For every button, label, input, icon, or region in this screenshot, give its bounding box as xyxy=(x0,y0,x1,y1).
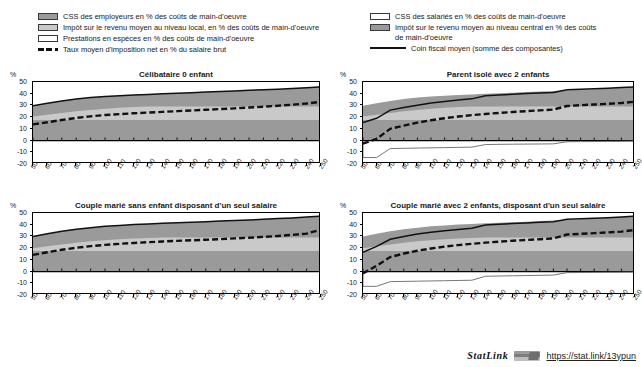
x-axis-tick-mark xyxy=(205,294,206,297)
y-tick-label: 50 xyxy=(349,78,357,85)
dashed-line-icon xyxy=(38,46,58,53)
x-axis-tick-mark xyxy=(162,294,163,297)
x-axis-tick-mark xyxy=(147,294,148,297)
y-tick-label: 10 xyxy=(19,124,27,131)
x-axis-tick-mark xyxy=(498,163,499,166)
x-axis-tick-mark xyxy=(277,163,278,166)
x-axis-tick-mark xyxy=(607,163,608,166)
x-axis-tick-mark xyxy=(219,163,220,166)
y-tick-label: 40 xyxy=(19,220,27,227)
x-axis-tick-mark xyxy=(306,294,307,297)
x-axis-tick-mark xyxy=(634,163,635,166)
statlink-barcode-icon xyxy=(514,351,540,361)
x-axis-tick-mark xyxy=(133,163,134,166)
chart-title: Couple marié sans enfant disposant d'un … xyxy=(32,201,320,210)
legend-label: Prestations en espèces en % des coûts de… xyxy=(63,34,254,44)
legend-right: CSS des salariés en % des coûts de main-… xyxy=(370,12,600,55)
area-band xyxy=(363,120,634,141)
y-tick-label: 0 xyxy=(353,136,357,143)
area-band xyxy=(33,120,320,141)
x-axis-tick-mark xyxy=(552,163,553,166)
x-axis-tick-mark xyxy=(362,294,363,297)
y-tick-label: 0 xyxy=(353,267,357,274)
benefits-line xyxy=(363,272,634,287)
x-axis-tick-mark xyxy=(539,294,540,297)
y-tick-label: 20 xyxy=(349,113,357,120)
x-axis-tick-mark xyxy=(416,294,417,297)
y-tick-label: -10 xyxy=(347,148,357,155)
y-tick-label: 30 xyxy=(19,232,27,239)
chart-title: Couple marié avec 2 enfants, disposant d… xyxy=(362,201,634,210)
y-tick-label: 40 xyxy=(349,220,357,227)
swatch-dark-icon xyxy=(370,24,390,31)
legend-label: Taux moyen d'imposition net en % du sala… xyxy=(63,45,226,55)
y-tick-label: 10 xyxy=(349,255,357,262)
y-tick-label: 30 xyxy=(349,232,357,239)
x-axis-tick-mark xyxy=(580,294,581,297)
series-canvas xyxy=(33,82,320,163)
x-axis-tick-mark xyxy=(444,163,445,166)
x-axis-tick-mark xyxy=(46,163,47,166)
x-axis-tick-mark xyxy=(430,163,431,166)
x-axis-tick-mark xyxy=(248,163,249,166)
x-axis-tick-mark xyxy=(190,163,191,166)
y-axis-unit: % xyxy=(10,71,16,78)
x-axis-tick-mark xyxy=(471,163,472,166)
plot-area xyxy=(32,212,320,294)
y-tick-label: 20 xyxy=(349,244,357,251)
x-axis-tick-mark xyxy=(389,294,390,297)
x-axis-tick-mark xyxy=(219,294,220,297)
y-axis: 50403020100-10-20 xyxy=(9,81,29,163)
x-axis-tick-mark xyxy=(104,294,105,297)
x-axis-tick-mark xyxy=(389,163,390,166)
x-axis-tick-mark xyxy=(512,163,513,166)
y-tick-label: 30 xyxy=(19,101,27,108)
x-axis-tick-mark xyxy=(90,294,91,297)
area-band xyxy=(33,251,320,272)
series-canvas xyxy=(363,82,634,163)
y-tick-label: 40 xyxy=(19,89,27,96)
y-axis: 50403020100-10-20 xyxy=(339,212,359,294)
x-axis-tick-mark xyxy=(277,294,278,297)
y-tick-label: 50 xyxy=(19,209,27,216)
swatch-light-icon xyxy=(370,13,390,20)
y-tick-label: 0 xyxy=(23,136,27,143)
legend-item: Prestations en espèces en % des coûts de… xyxy=(38,34,319,44)
x-axis-tick-mark xyxy=(525,163,526,166)
y-axis: 50403020100-10-20 xyxy=(339,81,359,163)
swatch-mid-icon xyxy=(38,24,58,31)
statlink-footer: StatLink https://stat.link/13ypun xyxy=(467,350,636,361)
x-axis-tick-mark xyxy=(539,163,540,166)
legend-item: Taux moyen d'imposition net en % du sala… xyxy=(38,45,319,55)
y-tick-label: -10 xyxy=(17,148,27,155)
x-axis-tick-mark xyxy=(291,294,292,297)
x-axis-tick-mark xyxy=(593,294,594,297)
x-axis-tick-mark xyxy=(90,163,91,166)
x-axis-tick-mark xyxy=(525,294,526,297)
x-axis-tick-mark xyxy=(118,294,119,297)
x-axis-tick-mark xyxy=(32,163,33,166)
x-axis-tick-mark xyxy=(376,163,377,166)
x-axis-tick-mark xyxy=(262,163,263,166)
y-axis-unit: % xyxy=(340,71,346,78)
x-axis-tick-mark xyxy=(104,163,105,166)
x-axis-tick-mark xyxy=(262,294,263,297)
y-tick-label: 50 xyxy=(349,209,357,216)
x-axis-tick-mark xyxy=(566,294,567,297)
legend-item: CSS des salariés en % des coûts de main-… xyxy=(370,12,600,22)
chart-title: Célibataire 0 enfant xyxy=(32,70,320,79)
legend-label: CSS des employeurs en % des coûts de mai… xyxy=(63,12,247,22)
x-axis-tick-mark xyxy=(362,163,363,166)
x-axis-tick-mark xyxy=(61,294,62,297)
x-axis-tick-mark xyxy=(484,294,485,297)
y-axis-unit: % xyxy=(340,202,346,209)
chart-panel-parent-isole-2-enfants: Parent isolé avec 2 enfants%50403020100-… xyxy=(362,81,634,163)
legend-label: Coin fiscal moyen (somme des composantes… xyxy=(411,44,563,54)
y-tick-label: 20 xyxy=(19,113,27,120)
x-axis-tick-mark xyxy=(234,163,235,166)
statlink-url-link[interactable]: https://stat.link/13ypun xyxy=(546,351,636,361)
solid-line-icon xyxy=(370,45,406,52)
x-axis-tick-mark xyxy=(620,163,621,166)
x-axis-tick-mark xyxy=(205,163,206,166)
legend-label: Impôt sur le revenu moyen au niveau loca… xyxy=(63,23,319,33)
